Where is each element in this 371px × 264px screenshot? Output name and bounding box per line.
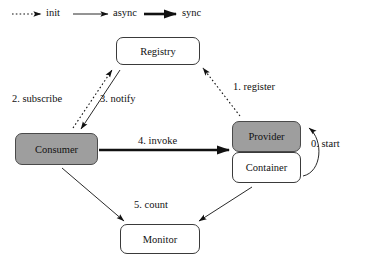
node-provider[interactable]: Provider bbox=[232, 121, 301, 152]
legend-label-sync: sync bbox=[182, 8, 201, 19]
edge-count-consumer bbox=[62, 168, 124, 221]
node-registry[interactable]: Registry bbox=[116, 37, 200, 65]
edge-label-count: 5. count bbox=[134, 200, 168, 211]
edge-label-start: 0. start bbox=[311, 139, 340, 150]
edge-label-notify: 3. notify bbox=[100, 94, 136, 105]
node-registry-label: Registry bbox=[140, 46, 176, 57]
node-container-label: Container bbox=[246, 162, 287, 173]
edge-label-invoke: 4. invoke bbox=[138, 136, 177, 147]
node-consumer[interactable]: Consumer bbox=[15, 133, 98, 165]
node-monitor[interactable]: Monitor bbox=[120, 224, 200, 254]
edge-label-register: 1. register bbox=[233, 82, 275, 93]
legend-label-init: init bbox=[46, 8, 60, 19]
diagram-canvas: init async sync Registry Consumer Provid… bbox=[0, 0, 371, 264]
edge-label-subscribe: 2. subscribe bbox=[12, 94, 62, 105]
node-container[interactable]: Container bbox=[232, 152, 301, 183]
node-provider-label: Provider bbox=[248, 131, 284, 142]
legend-label-async: async bbox=[113, 8, 137, 19]
edge-count-container bbox=[199, 187, 252, 221]
node-monitor-label: Monitor bbox=[143, 234, 177, 245]
node-consumer-label: Consumer bbox=[35, 144, 78, 155]
edge-start-self-loop bbox=[303, 128, 319, 176]
